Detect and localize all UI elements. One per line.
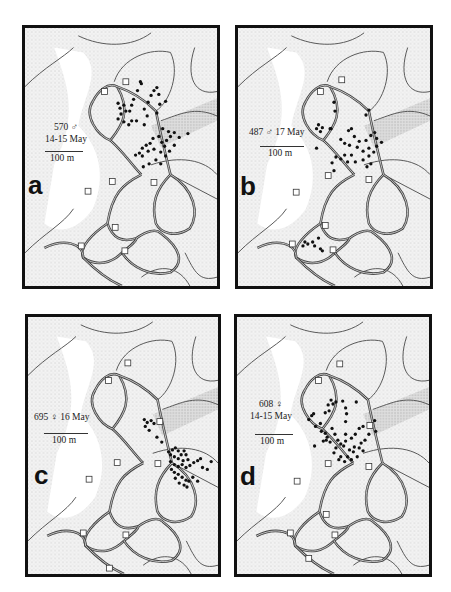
date-label: 14-15 May [45,133,87,145]
location-point [182,449,185,452]
location-point [188,464,191,467]
location-point [201,466,204,469]
location-point [184,453,187,456]
location-point [151,137,154,140]
location-point [353,445,356,448]
location-point [344,433,347,436]
location-point [177,473,180,476]
station-square-marker [332,532,338,538]
station-square-marker [85,188,91,194]
location-point [337,458,340,461]
location-point [163,145,166,148]
location-point [334,446,337,449]
station-square-marker [102,89,108,95]
location-point [356,146,359,149]
location-point [177,449,180,452]
location-point [369,162,372,165]
location-point [191,476,194,479]
station-square-marker [325,173,331,179]
scale-bar [44,433,88,434]
location-point [325,438,328,441]
location-point [122,120,125,123]
location-point [339,455,342,458]
location-point [116,102,119,105]
scale-bar-label: 100 m [52,435,76,445]
location-point [154,158,157,161]
location-point [185,485,188,488]
location-point [158,103,161,106]
date-label: 14-15 May [250,410,292,422]
panel-caption: 695 ♀ 16 May [34,411,89,423]
location-point [128,109,131,112]
location-point [367,108,370,111]
location-point [165,139,168,142]
location-point [159,162,162,165]
terrain-map [28,317,218,574]
station-square-marker [318,89,324,95]
panel-letter: b [240,173,256,199]
map-panel-b [235,25,433,289]
terrain-map [238,28,430,286]
location-point [148,429,151,432]
location-point [331,402,334,405]
location-point [346,160,349,163]
panel-caption: 570 ♂14-15 May [45,121,87,145]
location-point [329,127,332,130]
location-point [350,458,353,461]
location-point [178,481,181,484]
location-point [355,400,358,403]
location-point [130,104,133,107]
location-point [180,476,183,479]
location-point [149,94,152,97]
location-point [313,244,316,247]
scale-bar [45,151,83,152]
location-point [160,141,163,144]
location-point [119,112,122,115]
location-point [152,422,155,425]
location-point [380,141,383,144]
location-point [313,444,316,447]
location-point [116,117,119,120]
scale-bar [255,434,293,435]
location-point [345,412,348,415]
location-point [178,136,181,139]
location-point [164,154,167,157]
location-point [196,459,199,462]
station-square-marker [109,179,115,185]
location-point [135,119,138,122]
location-point [174,477,177,480]
location-point [361,425,364,428]
station-square-marker [330,247,336,253]
location-point [167,450,170,453]
location-point [347,129,350,132]
panel-letter: a [28,172,42,198]
station-square-marker [86,476,92,482]
station-square-marker [366,464,372,470]
location-point [155,86,158,89]
location-point [350,127,353,130]
location-point [210,460,213,463]
location-point [144,425,147,428]
animal-id-label: 695 ♀ 16 May [34,411,89,423]
location-point [180,453,183,456]
location-point [336,438,339,441]
station-square-marker [322,222,328,228]
location-point [343,153,346,156]
location-point [321,126,324,129]
location-point [348,448,351,451]
location-point [124,109,127,112]
location-point [184,466,187,469]
location-point [147,101,150,104]
location-point [152,89,155,92]
panel-caption: 487 ♂ 17 May [249,126,304,138]
location-point [192,461,195,464]
location-point [339,138,342,141]
station-square-marker [123,79,129,85]
location-point [367,154,370,157]
location-point [373,131,376,134]
station-square-marker [366,177,372,183]
location-point [173,471,176,474]
location-point [145,144,148,147]
location-point [369,134,372,137]
location-point [184,479,187,482]
